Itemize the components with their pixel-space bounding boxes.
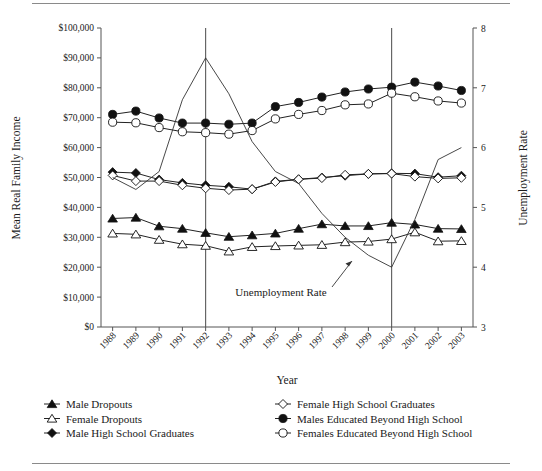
legend-marker-open-diamond xyxy=(279,400,288,409)
legend-label: Female Dropouts xyxy=(66,413,142,425)
series-path xyxy=(113,82,462,124)
x-axis-ticks: 1988198919901991199219931994199519961997… xyxy=(98,327,467,351)
data-point-1994 xyxy=(248,119,256,127)
data-point-1996 xyxy=(294,175,303,184)
right-tick-label-8: 8 xyxy=(481,24,486,34)
data-point-1995 xyxy=(271,177,280,186)
x-tick-label-2001: 2001 xyxy=(400,330,421,351)
data-point-2000 xyxy=(387,235,397,243)
data-point-2002 xyxy=(434,82,442,90)
legend-item-female-high-school-graduates[interactable]: Female High School Graduates xyxy=(275,398,435,410)
x-tick-label-1989: 1989 xyxy=(121,330,142,351)
y2-axis-title: Unemployment Rate xyxy=(517,130,530,226)
data-point-2000 xyxy=(387,169,396,178)
x-tick-label-2003: 2003 xyxy=(446,330,467,351)
series-path xyxy=(113,93,462,134)
legend-item-females-educated-beyond-high-school[interactable]: Females Educated Beyond High School xyxy=(275,427,472,439)
data-point-2003 xyxy=(457,86,465,94)
series-path xyxy=(113,58,462,267)
data-point-1993 xyxy=(225,120,233,128)
data-point-2000 xyxy=(387,218,397,226)
left-tick-label-80000: $80,000 xyxy=(63,83,94,93)
data-point-1996 xyxy=(295,98,303,106)
left-axis-ticks: $0$10,000$20,000$30,000$40,000$50,000$60… xyxy=(58,23,101,332)
data-point-2002 xyxy=(434,97,442,105)
y-axis-title: Mean Real Family Income xyxy=(10,117,23,240)
legend-marker-filled-circle xyxy=(279,414,287,422)
data-point-1999 xyxy=(364,100,372,108)
legend-label: Males Educated Beyond High School xyxy=(297,413,463,425)
data-point-1992 xyxy=(202,119,210,127)
data-point-1995 xyxy=(271,103,279,111)
series-female-dropouts xyxy=(108,228,466,255)
left-tick-label-50000: $50,000 xyxy=(63,173,94,183)
left-tick-label-40000: $40,000 xyxy=(63,203,94,213)
left-tick-label-20000: $20,000 xyxy=(63,263,94,273)
right-tick-label-5: 5 xyxy=(481,203,486,213)
x-axis-title: Year xyxy=(276,374,297,386)
data-point-2001 xyxy=(410,228,420,236)
data-point-1992 xyxy=(202,129,210,137)
data-point-1998 xyxy=(341,88,349,96)
legend-marker-filled-diamond xyxy=(48,429,57,438)
data-point-1991 xyxy=(178,128,186,136)
data-point-1993 xyxy=(225,130,233,138)
data-point-1997 xyxy=(318,106,326,114)
annotation-arrow-head xyxy=(346,261,353,267)
x-tick-label-1995: 1995 xyxy=(260,330,281,351)
series-females-educated-beyond-high-school xyxy=(109,89,466,138)
right-tick-label-7: 7 xyxy=(481,84,486,94)
x-tick-label-1988: 1988 xyxy=(98,330,119,351)
legend-item-male-dropouts[interactable]: Male Dropouts xyxy=(44,398,132,410)
right-tick-label-6: 6 xyxy=(481,143,486,153)
legend-label: Females Educated Beyond High School xyxy=(297,427,472,439)
legend-item-male-high-school-graduates[interactable]: Male High School Graduates xyxy=(44,427,194,439)
left-tick-label-30000: $30,000 xyxy=(63,233,94,243)
x-tick-label-2000: 2000 xyxy=(377,330,398,351)
data-point-1996 xyxy=(295,110,303,118)
series-unemployment-rate xyxy=(113,58,462,267)
legend: Male DropoutsFemale DropoutsMale High Sc… xyxy=(44,398,472,439)
right-tick-label-3: 3 xyxy=(481,323,486,333)
x-tick-label-1999: 1999 xyxy=(353,330,374,351)
series-path xyxy=(113,232,462,251)
data-point-1990 xyxy=(155,114,163,122)
annotation-group: Unemployment Rate xyxy=(235,261,352,298)
left-tick-label-60000: $60,000 xyxy=(63,143,94,153)
right-tick-label-4: 4 xyxy=(481,263,486,273)
x-tick-label-1994: 1994 xyxy=(237,330,258,351)
data-point-1997 xyxy=(317,220,327,228)
data-point-1990 xyxy=(154,222,164,230)
x-tick-label-1997: 1997 xyxy=(307,330,328,351)
legend-item-males-educated-beyond-high-school[interactable]: Males Educated Beyond High School xyxy=(275,413,463,425)
series-males-educated-beyond-high-school xyxy=(109,78,466,128)
x-tick-label-1990: 1990 xyxy=(144,330,165,351)
legend-marker-open-circle xyxy=(279,429,287,437)
x-tick-label-1998: 1998 xyxy=(330,330,351,351)
right-axis-ticks: 345678 xyxy=(473,24,486,333)
left-tick-label-90000: $90,000 xyxy=(63,53,94,63)
legend-label: Male High School Graduates xyxy=(66,427,194,439)
x-tick-label-1992: 1992 xyxy=(191,330,212,351)
data-point-1989 xyxy=(132,119,140,127)
left-tick-label-0: $0 xyxy=(85,322,95,332)
data-point-1997 xyxy=(318,93,326,101)
data-point-1999 xyxy=(364,85,372,93)
data-point-1997 xyxy=(317,174,326,183)
x-tick-label-1996: 1996 xyxy=(284,330,305,351)
x-tick-label-2002: 2002 xyxy=(423,330,444,351)
data-point-2000 xyxy=(388,89,396,97)
legend-label: Female High School Graduates xyxy=(297,398,435,410)
x-tick-label-1993: 1993 xyxy=(214,330,235,351)
data-point-2001 xyxy=(411,93,419,101)
data-point-1994 xyxy=(248,126,256,134)
data-point-2002 xyxy=(434,174,443,183)
left-tick-label-10000: $10,000 xyxy=(63,293,94,303)
data-point-1994 xyxy=(248,185,257,194)
left-tick-label-70000: $70,000 xyxy=(63,113,94,123)
data-point-1989 xyxy=(131,177,140,186)
data-point-2003 xyxy=(457,99,465,107)
legend-item-female-dropouts[interactable]: Female Dropouts xyxy=(44,413,142,425)
figure-container: $0$10,000$20,000$30,000$40,000$50,000$60… xyxy=(0,0,542,471)
x-tick-label-1991: 1991 xyxy=(167,330,188,351)
